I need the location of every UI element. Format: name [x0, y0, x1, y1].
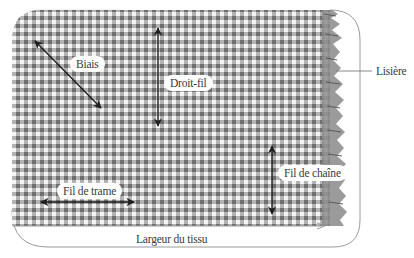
selvage-fringe: [322, 10, 347, 226]
straight-grain-label: Droit-fil: [164, 75, 213, 91]
weft-label: Fil de trame: [57, 183, 122, 199]
diagram-canvas: [0, 0, 414, 258]
bias-label: Biais: [70, 56, 105, 72]
fabric-width-label: Largeur du tissu: [136, 232, 207, 246]
fabric-grain-diagram: Biais Droit-fil Lisière Fil de chaîne Fi…: [0, 0, 414, 258]
warp-label: Fil de chaîne: [278, 165, 347, 181]
selvage-label: Lisière: [376, 64, 407, 78]
